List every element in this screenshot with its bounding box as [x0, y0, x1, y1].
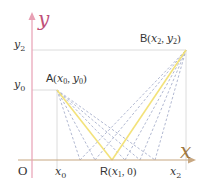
origin-label: O: [18, 163, 27, 178]
tick-x2: x2: [170, 165, 181, 180]
path-A-to-R: [57, 90, 112, 160]
reflection-path: [57, 50, 186, 160]
gridlines: [32, 50, 186, 170]
tick-y0: y0: [13, 78, 25, 93]
tick-x0: x0: [55, 165, 66, 180]
y-axis-arrow-icon: [29, 12, 36, 20]
x-axis-label: x: [180, 139, 191, 163]
y-axis: [29, 12, 36, 178]
y-axis-label: y: [37, 7, 50, 31]
tick-y2: y2: [13, 38, 25, 53]
point-B-label: B(x2, y2): [140, 32, 181, 46]
path-R-to-B: [112, 50, 186, 160]
point-A-label: A(x0, y0): [46, 72, 87, 86]
point-R-label: R(x1, 0): [100, 165, 137, 179]
dashed-candidate-paths: [57, 50, 186, 160]
reflection-path-diagram: y x O y2 y0 x0 x2 A(x0, y0) B(x2, y2) R(…: [0, 0, 208, 185]
x-axis: [18, 157, 196, 164]
